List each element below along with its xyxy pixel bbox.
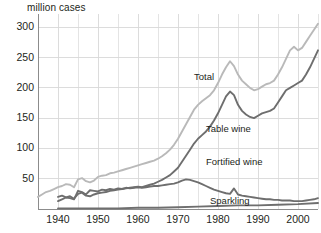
y-tick-label-150: 150 <box>0 111 34 123</box>
series-label-total: Total <box>194 71 214 82</box>
series-label-fortified_wine: Fortified wine <box>206 156 263 167</box>
x-tick-label-1940: 1940 <box>38 213 78 225</box>
y-tick-label-200: 200 <box>0 81 34 93</box>
x-tick-label-1960: 1960 <box>118 213 158 225</box>
line-chart: million cases 30025020015010050 19401950… <box>0 0 321 233</box>
chart-plot-area <box>0 0 321 233</box>
y-tick-label-100: 100 <box>0 141 34 153</box>
x-tick-label-1970: 1970 <box>158 213 198 225</box>
x-tick-label-1990: 1990 <box>238 213 278 225</box>
y-tick-label-300: 300 <box>0 20 34 32</box>
series-label-table_wine: Table wine <box>206 123 251 134</box>
x-tick-label-2000: 2000 <box>278 213 318 225</box>
x-tick-label-1980: 1980 <box>198 213 238 225</box>
x-tick-label-1950: 1950 <box>78 213 118 225</box>
y-tick-label-50: 50 <box>0 172 34 184</box>
y-tick-label-250: 250 <box>0 51 34 63</box>
series-label-sparkling: Sparkling <box>210 195 250 206</box>
